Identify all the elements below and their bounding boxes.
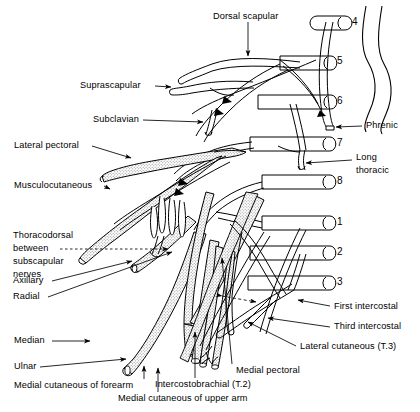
leader-ulnar	[40, 359, 126, 367]
leader-phrenic	[336, 126, 362, 127]
figure-canvas: 4 5 6 7 8 1 2 3 Dorsal scapular Suprasca…	[0, 0, 420, 412]
root-number-c5: 5	[337, 55, 343, 66]
root-number-c6: 6	[337, 95, 343, 106]
leader-third-intercostal	[268, 318, 330, 327]
leader-suprascapular	[155, 86, 171, 87]
leader-long-thoracic	[306, 160, 352, 163]
label-radial: Radial	[13, 290, 40, 303]
root-number-t2: 2	[337, 246, 343, 257]
label-median: Median	[14, 334, 45, 347]
label-third-intercostal: Third intercostal	[334, 320, 401, 333]
label-ulnar: Ulnar	[14, 360, 36, 373]
label-medial-cutaneous-forearm: Medial cutaneous of forearm	[14, 379, 133, 392]
label-thoracodorsal-line3: subscapular	[13, 255, 64, 268]
label-lateral-pectoral: Lateral pectoral	[14, 139, 79, 152]
root-number-c7: 7	[337, 137, 343, 148]
label-medial-cutaneous-upper-arm: Medial cutaneous of upper arm	[118, 392, 248, 405]
label-suprascapular: Suprascapular	[80, 79, 141, 92]
label-long-thoracic-line1: Long	[356, 151, 377, 164]
label-medial-pectoral: Medial pectoral	[236, 364, 300, 377]
leader-first-intercostal	[298, 300, 330, 306]
label-axillary: Axillary	[13, 274, 43, 287]
label-long-thoracic-line2: thoracic	[356, 164, 389, 177]
label-lateral-cutaneous-t3: Lateral cutaneous (T.3)	[300, 340, 396, 353]
label-subclavian: Subclavian	[93, 113, 139, 126]
label-intercostobrachial: Intercostobrachial (T.2)	[155, 378, 251, 391]
leader-lateral-cutaneous-t3	[248, 322, 296, 346]
label-musculocutaneous: Musculocutaneous	[14, 179, 92, 192]
root-number-c8: 8	[337, 175, 343, 186]
root-number-t1: 1	[337, 216, 343, 227]
root-number-c4: 4	[352, 16, 358, 27]
label-first-intercostal: First intercostal	[334, 300, 398, 313]
label-thoracodorsal-line1: Thoracodorsal	[13, 229, 73, 242]
leader-subclavian	[143, 120, 203, 122]
leader-musculocutaneous	[104, 186, 110, 189]
label-thoracodorsal-line2: between	[13, 242, 48, 255]
leader-radial	[48, 252, 172, 297]
leader-lateral-pectoral	[92, 146, 131, 158]
root-number-t3: 3	[337, 276, 343, 287]
label-phrenic: Phrenic	[366, 119, 398, 132]
label-dorsal-scapular: Dorsal scapular	[213, 10, 278, 23]
